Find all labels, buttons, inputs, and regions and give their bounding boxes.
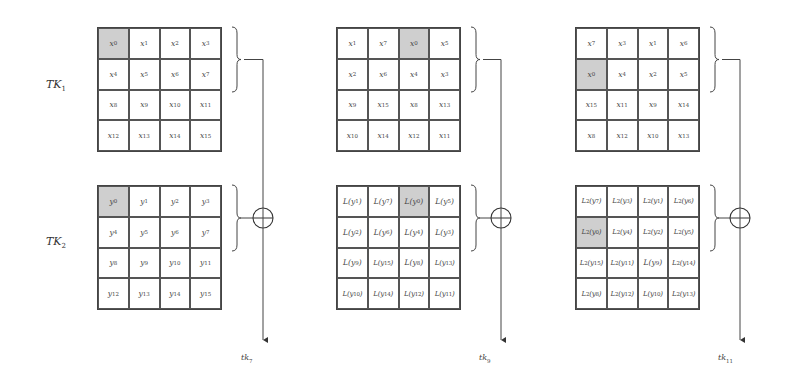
output-label-tk7: tk7 <box>241 353 253 364</box>
output-label-tk9: tk9 <box>479 353 491 364</box>
output-label-tk11: tk11 <box>718 353 733 364</box>
tk1-brace <box>710 27 719 92</box>
tk1-connector-line <box>244 60 263 209</box>
connector-overlay <box>0 0 787 378</box>
tk2-brace <box>232 185 241 251</box>
tk1-connector-line <box>722 60 740 209</box>
tk1-brace <box>232 27 241 92</box>
tk1-brace <box>471 27 480 92</box>
tk1-connector-line <box>483 60 501 209</box>
tk2-brace <box>471 185 480 251</box>
tk2-brace <box>710 185 719 251</box>
